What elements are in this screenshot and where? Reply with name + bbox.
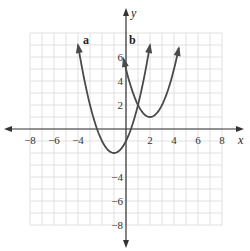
x-tick-label: 4 <box>171 134 177 146</box>
curve-b <box>124 48 179 117</box>
coordinate-plane: −8−6−42468642−4−6−8 x y a b <box>0 0 250 251</box>
y-tick-label: −6 <box>111 195 123 207</box>
x-axis-label: x <box>237 133 244 147</box>
curve-a-arrow-icon <box>76 43 83 53</box>
x-tick-label: 2 <box>147 134 153 146</box>
y-tick-label: 4 <box>118 75 124 87</box>
curve-a-arrow-icon <box>145 43 152 53</box>
x-axis-right-arrow-icon <box>236 126 244 132</box>
y-tick-label: −8 <box>111 219 123 231</box>
y-axis-label: y <box>130 6 137 20</box>
y-tick-label: 6 <box>118 51 124 63</box>
x-tick-label: −8 <box>24 134 36 146</box>
x-tick-label: 6 <box>195 134 201 146</box>
curve-b-label: b <box>129 33 136 47</box>
curve-a-label: a <box>83 33 89 47</box>
y-tick-label: 2 <box>118 99 124 111</box>
y-tick-label: −4 <box>111 171 123 183</box>
x-tick-label: 8 <box>219 134 225 146</box>
curves <box>76 43 181 153</box>
x-tick-label: −4 <box>72 134 84 146</box>
curve-b-arrow-icon <box>174 46 181 57</box>
y-axis-up-arrow-icon <box>123 8 129 16</box>
curve-b-arrow-icon <box>122 57 129 68</box>
x-axis-left-arrow-icon <box>4 126 12 132</box>
axes <box>4 8 244 248</box>
x-tick-label: −6 <box>48 134 60 146</box>
y-axis-down-arrow-icon <box>123 240 129 248</box>
